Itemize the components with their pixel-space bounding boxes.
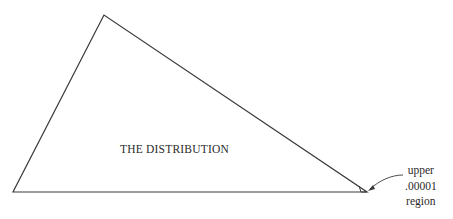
distribution-label: THE DISTRIBUTION xyxy=(120,143,229,155)
upper-region-label: upper .00001 region xyxy=(405,163,437,210)
region-label-line-1: upper xyxy=(405,163,437,179)
distribution-triangle-figure xyxy=(0,0,453,219)
region-label-line-2: .00001 xyxy=(405,179,437,195)
pointer-arrow-icon xyxy=(370,175,403,189)
region-label-line-3: region xyxy=(405,194,437,210)
diagram-canvas: THE DISTRIBUTION upper .00001 region xyxy=(0,0,453,219)
distribution-triangle xyxy=(13,15,367,192)
